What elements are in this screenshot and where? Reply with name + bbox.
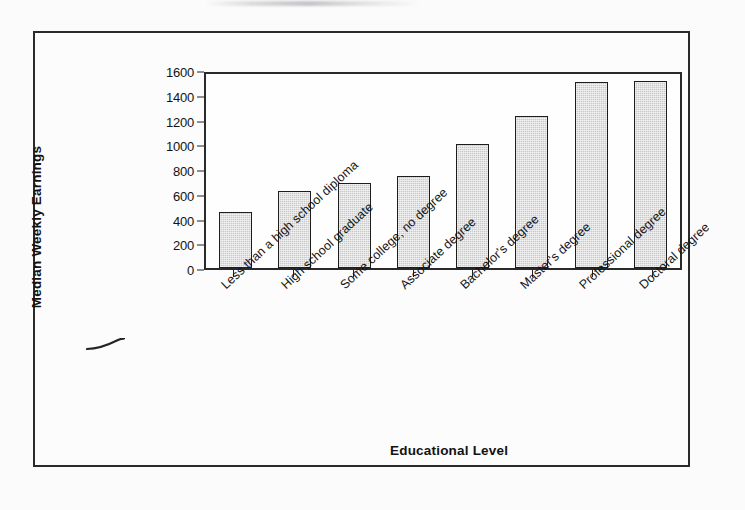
y-axis-tick-mark	[197, 72, 204, 73]
bar[interactable]	[515, 116, 548, 268]
y-axis-tick-label: 1000	[166, 139, 194, 154]
pen-stroke-artifact	[86, 338, 130, 352]
y-axis-tick-mark	[197, 171, 204, 172]
y-axis-tick-label: 1200	[166, 114, 194, 129]
bar[interactable]	[456, 144, 489, 268]
y-axis-tick-mark	[197, 195, 204, 196]
y-axis-tick-mark	[197, 270, 204, 271]
y-axis-tick-label: 400	[173, 213, 194, 228]
y-axis-ticks: 02004006008001000120014001600	[152, 72, 204, 270]
y-axis-tick-mark	[197, 96, 204, 97]
y-axis-title: Median Weekly Earnings	[29, 117, 44, 337]
y-axis-tick-mark	[197, 220, 204, 221]
y-axis-tick-label: 1600	[166, 65, 194, 80]
y-axis-tick-label: 0	[187, 263, 194, 278]
x-axis-title: Educational Level	[390, 443, 508, 458]
y-axis-tick-label: 1400	[166, 89, 194, 104]
y-axis-tick-label: 200	[173, 238, 194, 253]
x-axis-ticks	[204, 270, 682, 278]
y-axis-tick-mark	[197, 245, 204, 246]
y-axis-tick-mark	[197, 121, 204, 122]
scan-smudge-artifact	[205, 1, 420, 6]
y-axis-tick-label: 800	[173, 164, 194, 179]
y-axis-tick-label: 600	[173, 188, 194, 203]
y-axis-tick-mark	[197, 146, 204, 147]
bar-slot	[206, 74, 265, 268]
